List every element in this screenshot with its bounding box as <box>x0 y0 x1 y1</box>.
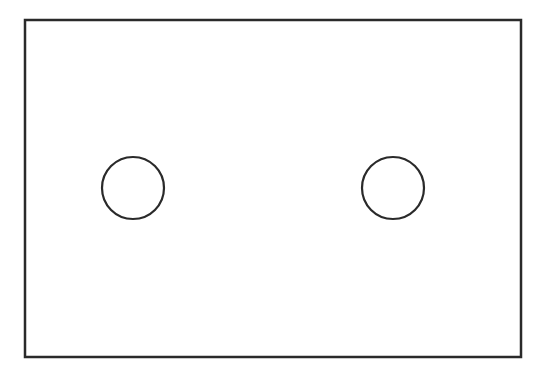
left-circle <box>102 157 164 219</box>
diagram-canvas <box>0 0 542 370</box>
outer-rectangle <box>25 20 521 357</box>
right-circle <box>362 157 424 219</box>
